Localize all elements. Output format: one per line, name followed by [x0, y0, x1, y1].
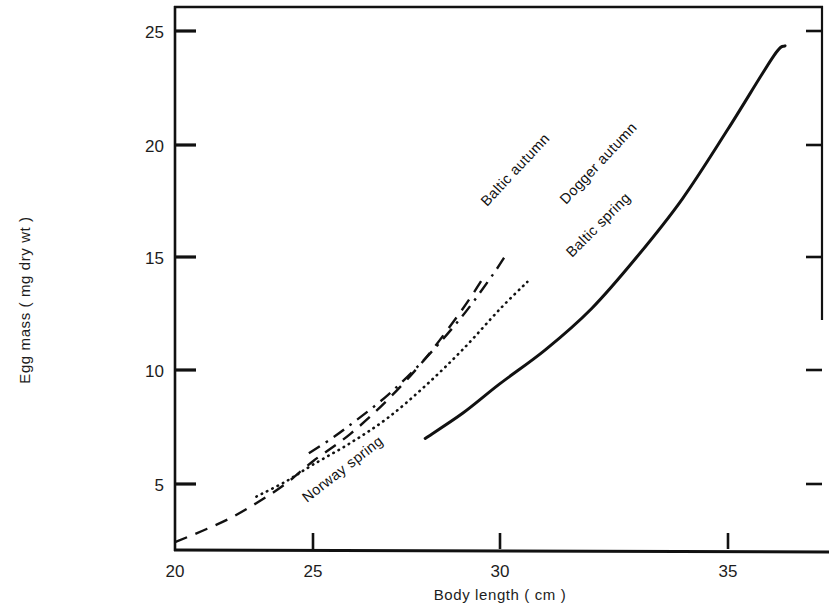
x-tick-label: 35: [719, 562, 738, 581]
x-axis-title: Body length ( cm ): [434, 586, 567, 603]
y-axis-title: Egg mass ( mg dry wt ): [16, 216, 33, 383]
y-tick-label: 20: [145, 137, 164, 156]
y-tick-label: 25: [145, 23, 164, 42]
axis-bottom-line: [174, 550, 829, 552]
egg-mass-vs-body-length-chart: 510152025 20253035 Baltic autumnDogger a…: [0, 0, 829, 613]
x-tick-label: 30: [491, 562, 510, 581]
y-tick-label: 5: [155, 476, 164, 495]
x-tick-label: 25: [304, 562, 323, 581]
x-tick-label: 20: [166, 562, 185, 581]
figure-container: 510152025 20253035 Baltic autumnDogger a…: [0, 0, 829, 613]
y-tick-label: 10: [145, 362, 164, 381]
chart-background: [0, 0, 829, 613]
y-tick-label: 15: [145, 249, 164, 268]
